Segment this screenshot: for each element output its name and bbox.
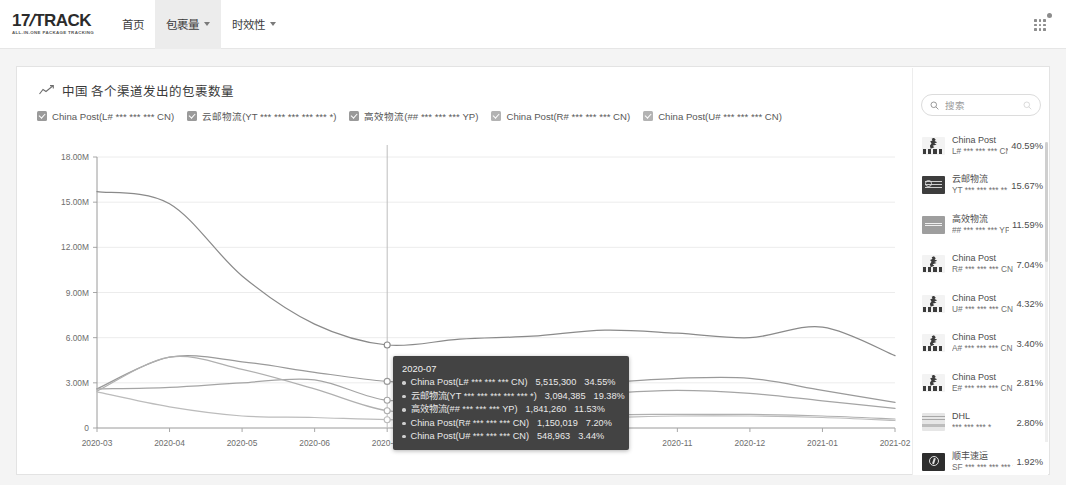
trend-line-icon xyxy=(39,85,54,96)
clear-icon[interactable] xyxy=(1023,101,1032,110)
legend-checkbox-icon[interactable] xyxy=(37,111,47,121)
tooltip-series-pct: 34.55% xyxy=(584,376,615,389)
yunyou-logo xyxy=(922,176,945,194)
svg-text:18.00M: 18.00M xyxy=(61,152,89,162)
nav-item-timeliness-label: 时效性 xyxy=(232,16,265,32)
carrier-name: 云邮物流 xyxy=(952,174,1008,185)
svg-text:2020-04: 2020-04 xyxy=(154,438,185,448)
carrier-code: U# *** *** *** CN xyxy=(952,304,1013,315)
main-nav: 首页 包裹量 时效性 xyxy=(111,0,287,49)
top-navigation-bar: 17/TRACK ALL-IN-ONE PACKAGE TRACKING 首页 … xyxy=(0,0,1066,49)
carrier-name: 高效物流 xyxy=(952,214,1009,225)
carrier-list-item[interactable]: 云邮物流 YT *** *** *** ** _ 15.67% xyxy=(913,166,1048,206)
carrier-list-item[interactable]: China Post A# *** *** *** CN 3.40% xyxy=(913,324,1048,364)
nav-item-package-volume[interactable]: 包裹量 xyxy=(155,0,221,49)
carrier-percent: 1.92% xyxy=(1016,456,1043,467)
series-dot-icon xyxy=(402,381,406,385)
chevron-down-icon xyxy=(270,22,276,26)
legend-label: China Post(R# *** *** *** CN) xyxy=(506,111,630,122)
logo-wordmark: 17/TRACK xyxy=(12,12,94,29)
carrier-side-panel: China Post L# *** *** *** CN 40.59% 云邮物流… xyxy=(912,68,1048,475)
tooltip-series-name: China Post(L# *** *** *** CN) xyxy=(411,376,528,389)
legend-label: China Post(L# *** *** *** CN) xyxy=(52,111,174,122)
search-icon xyxy=(930,101,939,110)
series-dot-icon xyxy=(402,395,406,399)
series-dot-icon xyxy=(402,422,406,426)
tooltip-series-name: China Post(R# *** *** *** CN) xyxy=(411,417,529,430)
tooltip-date: 2020-07 xyxy=(402,362,620,375)
series-dot-icon xyxy=(402,435,406,439)
legend-checkbox-icon[interactable] xyxy=(643,111,653,121)
chevron-down-icon xyxy=(204,22,210,26)
gaoxiao-logo xyxy=(922,216,945,234)
svg-text:12.00M: 12.00M xyxy=(61,242,89,252)
legend-item-china-post-r[interactable]: China Post(R# *** *** *** CN) xyxy=(491,111,630,122)
sf-logo xyxy=(922,453,945,471)
china-post-logo xyxy=(922,255,945,273)
legend-checkbox-icon[interactable] xyxy=(349,111,359,121)
notification-dot-icon xyxy=(1047,13,1052,18)
series-dot-icon xyxy=(402,408,406,412)
nav-item-package-volume-label: 包裹量 xyxy=(166,16,199,32)
tooltip-series-value: 1,150,019 xyxy=(537,417,578,430)
carrier-name: 顺丰速运 xyxy=(952,451,1013,462)
carrier-code: SF *** *** *** *** * xyxy=(952,462,1013,473)
svg-text:2020-05: 2020-05 xyxy=(227,438,258,448)
carrier-name: China Post xyxy=(952,293,1013,304)
legend-checkbox-icon[interactable] xyxy=(491,111,501,121)
tooltip-series-value: 548,963 xyxy=(537,430,570,443)
carrier-code: ## *** *** *** YP xyxy=(952,225,1009,236)
carrier-code: *** *** *** * xyxy=(952,422,1013,433)
search-input[interactable] xyxy=(945,100,1023,111)
tooltip-series-pct: 3.44% xyxy=(578,430,604,443)
china-post-logo xyxy=(922,334,945,352)
carrier-percent: 7.04% xyxy=(1016,259,1043,270)
legend-item-gaoxiao[interactable]: 高效物流(## *** *** *** YP) xyxy=(349,109,478,123)
legend-checkbox-icon[interactable] xyxy=(187,111,197,121)
carrier-code: L# *** *** *** CN xyxy=(952,146,1008,157)
svg-text:0: 0 xyxy=(84,423,89,433)
chart-title: 中国 各个渠道发出的包裹数量 xyxy=(39,81,234,100)
carrier-code: YT *** *** *** ** _ xyxy=(952,185,1008,196)
tooltip-row: China Post(R# *** *** *** CN) 1,150,019 … xyxy=(402,417,620,430)
tooltip-row: 高效物流(## *** *** *** YP) 1,841,260 11.53% xyxy=(402,403,620,416)
chart-card: 中国 各个渠道发出的包裹数量 China Post(L# *** *** ***… xyxy=(16,66,1050,475)
china-post-logo xyxy=(922,374,945,392)
logo-track: TRACK xyxy=(34,11,91,30)
nav-item-home[interactable]: 首页 xyxy=(111,0,155,49)
tooltip-series-name: 云邮物流(YT *** *** *** *** *** *) xyxy=(411,390,537,403)
carrier-list-item[interactable]: China Post L# *** *** *** CN 40.59% xyxy=(913,126,1048,166)
carrier-percent: 2.81% xyxy=(1016,377,1043,388)
tooltip-row: China Post(L# *** *** *** CN) 5,515,300 … xyxy=(402,376,620,389)
carrier-search-box[interactable] xyxy=(921,94,1041,116)
carrier-list-item[interactable]: DHL *** *** *** * 2.80% xyxy=(913,403,1048,443)
apps-grid-button[interactable] xyxy=(1032,14,1052,34)
china-post-logo xyxy=(922,295,945,313)
series-legend: China Post(L# *** *** *** CN) 云邮物流(YT **… xyxy=(37,109,909,123)
chart-tooltip: 2020-07 China Post(L# *** *** *** CN) 5,… xyxy=(393,356,629,450)
carrier-list-item[interactable]: 顺丰速运 SF *** *** *** *** * 1.92% xyxy=(913,442,1048,475)
dhl-logo xyxy=(922,413,945,431)
svg-text:2021-02: 2021-02 xyxy=(880,438,911,448)
legend-item-china-post-u[interactable]: China Post(U# *** *** *** CN) xyxy=(643,111,782,122)
carrier-code: E# *** *** *** CN xyxy=(952,383,1013,394)
legend-item-yunyou[interactable]: 云邮物流(YT *** *** *** *** *** *) xyxy=(187,109,336,123)
carrier-list-item[interactable]: 高效物流 ## *** *** *** YP 11.59% xyxy=(913,205,1048,245)
nav-item-timeliness[interactable]: 时效性 xyxy=(221,0,287,49)
logo-tagline: ALL-IN-ONE PACKAGE TRACKING xyxy=(12,29,94,36)
svg-text:2020-12: 2020-12 xyxy=(735,438,766,448)
legend-item-china-post-l[interactable]: China Post(L# *** *** *** CN) xyxy=(37,111,174,122)
svg-text:2020-03: 2020-03 xyxy=(82,438,113,448)
svg-text:2020-11: 2020-11 xyxy=(662,438,692,448)
svg-text:6.00M: 6.00M xyxy=(66,333,89,343)
carrier-list: China Post L# *** *** *** CN 40.59% 云邮物流… xyxy=(913,126,1048,475)
carrier-list-item[interactable]: China Post R# *** *** *** CN 7.04% xyxy=(913,245,1048,285)
carrier-list-item[interactable]: China Post U# *** *** *** CN 4.32% xyxy=(913,284,1048,324)
carrier-percent: 2.80% xyxy=(1016,417,1043,428)
svg-text:9.00M: 9.00M xyxy=(66,288,89,298)
panel-scrollbar-thumb[interactable] xyxy=(1045,142,1048,262)
brand-logo[interactable]: 17/TRACK ALL-IN-ONE PACKAGE TRACKING xyxy=(12,12,94,36)
carrier-list-item[interactable]: China Post E# *** *** *** CN 2.81% xyxy=(913,363,1048,403)
nav-item-home-label: 首页 xyxy=(122,16,144,32)
svg-text:2021-01: 2021-01 xyxy=(807,438,838,448)
